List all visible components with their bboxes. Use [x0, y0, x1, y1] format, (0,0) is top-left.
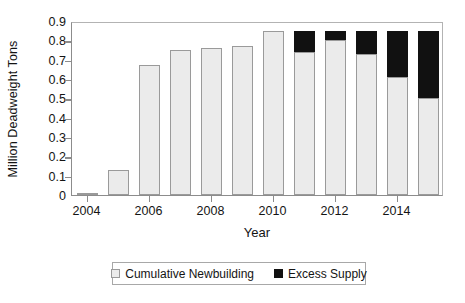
- bar-group: [108, 21, 130, 195]
- bar-group: [263, 21, 285, 195]
- y-axis-tick-mark: [65, 157, 72, 158]
- x-axis-tick-label: 2010: [243, 203, 303, 219]
- bar-group: [232, 21, 254, 195]
- y-axis-tick-label: 0.1: [24, 171, 66, 183]
- x-axis-tick-mark: [397, 196, 398, 202]
- bar-group: [139, 21, 161, 195]
- y-axis-tick-label: 0.8: [24, 35, 66, 47]
- bar-group: [387, 21, 409, 195]
- y-axis-tick-mark: [65, 61, 72, 62]
- bar-segment-cumulative-newbuilding: [232, 46, 254, 195]
- bar-segment-excess-supply: [387, 31, 409, 77]
- x-axis-tick-mark: [335, 196, 336, 202]
- bar-group: [418, 21, 440, 195]
- y-axis-tick-label: 0.4: [24, 113, 66, 125]
- y-axis-tick-label: 0.7: [24, 55, 66, 67]
- y-axis-tick-label: 0.3: [24, 132, 66, 144]
- bar-segment-cumulative-newbuilding: [170, 50, 192, 195]
- bar-segment-excess-supply: [418, 31, 440, 99]
- bar-segment-cumulative-newbuilding: [418, 98, 440, 195]
- legend-entry: Excess Supply: [274, 268, 367, 280]
- y-axis-tick-mark: [65, 41, 72, 42]
- bar-group: [77, 21, 99, 195]
- bar-segment-cumulative-newbuilding: [108, 170, 130, 195]
- bar-group: [201, 21, 223, 195]
- y-axis-title: Million Deadweight Tons: [2, 22, 24, 196]
- x-axis-tick-mark: [273, 196, 274, 202]
- x-axis-title: Year: [71, 225, 443, 240]
- x-axis-tick-label: 2014: [367, 203, 427, 219]
- bar-group: [325, 21, 347, 195]
- y-axis-tick-label: 0: [24, 190, 66, 202]
- bar-group: [170, 21, 192, 195]
- bar-segment-excess-supply: [356, 31, 378, 54]
- legend-swatch-cumulative-newbuilding-icon: [111, 269, 120, 278]
- legend-label: Excess Supply: [288, 268, 367, 280]
- y-axis-tick-mark: [65, 99, 72, 100]
- bar-segment-cumulative-newbuilding: [77, 193, 99, 195]
- legend-label: Cumulative Newbuilding: [125, 268, 254, 280]
- bar-segment-cumulative-newbuilding: [387, 77, 409, 195]
- bars-layer: [72, 23, 442, 195]
- chart-legend: Cumulative NewbuildingExcess Supply: [112, 262, 366, 285]
- bar-segment-cumulative-newbuilding: [356, 54, 378, 195]
- x-axis-tick-mark: [149, 196, 150, 202]
- y-axis-tick-mark: [65, 138, 72, 139]
- y-axis-tick-label: 0.6: [24, 74, 66, 86]
- y-axis-tick-mark: [65, 177, 72, 178]
- y-axis-tick-mark: [65, 80, 72, 81]
- bar-segment-cumulative-newbuilding: [201, 48, 223, 195]
- bar-segment-cumulative-newbuilding: [139, 65, 161, 195]
- bar-segment-cumulative-newbuilding: [325, 40, 347, 195]
- bar-segment-excess-supply: [294, 31, 316, 52]
- bar-segment-excess-supply: [325, 31, 347, 41]
- y-axis-tick-labels: 00.10.20.30.40.50.60.70.80.9: [24, 0, 66, 303]
- y-axis-tick-label: 0.2: [24, 151, 66, 163]
- plot-area: [71, 22, 443, 196]
- legend-entry: Cumulative Newbuilding: [111, 268, 254, 280]
- x-axis-tick-label: 2006: [119, 203, 179, 219]
- x-axis-tick-label: 2012: [305, 203, 365, 219]
- x-axis-tick-label: 2004: [57, 203, 117, 219]
- bar-group: [356, 21, 378, 195]
- x-axis-tick-mark: [211, 196, 212, 202]
- x-axis-tick-mark: [87, 196, 88, 202]
- y-axis-tick-label: 0.9: [24, 16, 66, 28]
- bar-chart: Million Deadweight Tons 00.10.20.30.40.5…: [0, 0, 465, 303]
- bar-group: [294, 21, 316, 195]
- y-axis-tick-label: 0.5: [24, 93, 66, 105]
- x-axis-tick-label: 2008: [181, 203, 241, 219]
- legend-swatch-excess-supply-icon: [274, 269, 283, 278]
- bar-segment-cumulative-newbuilding: [294, 52, 316, 195]
- bar-segment-cumulative-newbuilding: [263, 31, 285, 195]
- y-axis-tick-mark: [65, 119, 72, 120]
